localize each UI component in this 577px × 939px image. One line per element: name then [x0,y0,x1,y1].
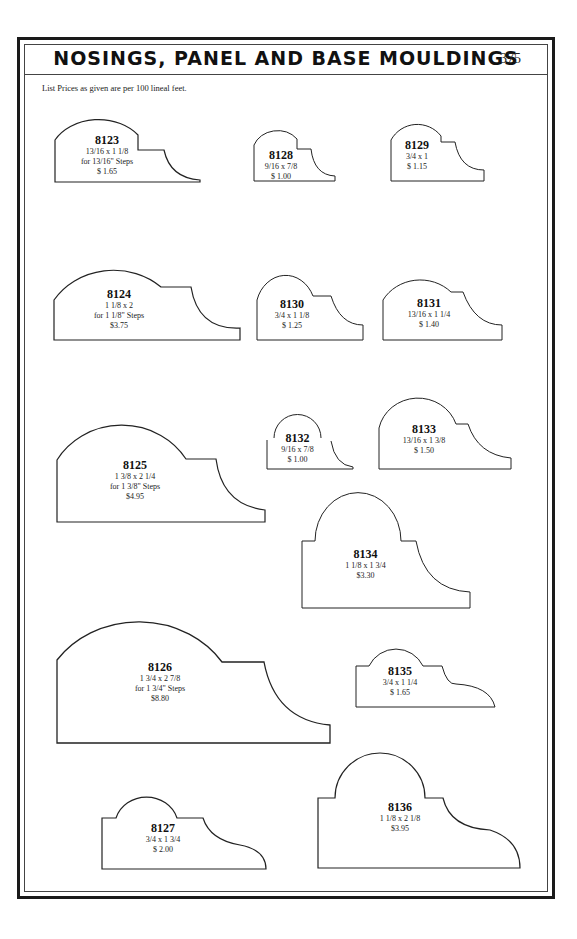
item-number: 8128 [256,149,306,162]
item-price: $ 1.65 [370,688,430,698]
item-number: 8125 [90,459,180,472]
item-number: 8127 [133,822,193,835]
item-size: 9/16 x 7/8 [256,162,306,172]
item-number: 8131 [394,297,464,310]
item-price: $ 1.00 [256,172,306,182]
item-price: $4.95 [90,492,180,502]
item-number: 8124 [74,288,164,301]
moulding-8124: 8124 1 1/8 x 2 for 1 1/8" Steps $3.75 [74,288,164,331]
item-price: $ 1.00 [270,455,325,465]
item-size: 13/16 x 1 1/8 [62,147,152,157]
moulding-8123: 8123 13/16 x 1 1/8 for 13/16" Steps $ 1.… [62,134,152,177]
item-size: 3/4 x 1 3/4 [133,835,193,845]
moulding-8135: 8135 3/4 x 1 1/4 $ 1.65 [370,665,430,698]
item-size: 1 1/8 x 2 1/8 [370,814,430,824]
item-price: $3.95 [370,824,430,834]
item-price: $3.30 [328,571,403,581]
item-price: $3.75 [74,321,164,331]
item-price: $ 2.00 [133,845,193,855]
item-number: 8129 [392,139,442,152]
item-number: 8133 [389,423,459,436]
item-number: 8130 [262,298,322,311]
item-number: 8134 [328,548,403,561]
item-size: 1 3/8 x 2 1/4 [90,472,180,482]
item-price: $ 1.25 [262,321,322,331]
moulding-8128: 8128 9/16 x 7/8 $ 1.00 [256,149,306,182]
item-number: 8126 [115,661,205,674]
item-size: 1 3/4 x 2 7/8 [115,674,205,684]
moulding-8125: 8125 1 3/8 x 2 1/4 for 1 3/8" Steps $4.9… [90,459,180,502]
item-size: 1 1/8 x 1 3/4 [328,561,403,571]
moulding-8130: 8130 3/4 x 1 1/8 $ 1.25 [262,298,322,331]
item-price: $ 1.65 [62,167,152,177]
item-number: 8123 [62,134,152,147]
item-size: 13/16 x 1 1/4 [394,310,464,320]
item-number: 8136 [370,801,430,814]
item-price: $ 1.50 [389,446,459,456]
moulding-8132: 8132 9/16 x 7/8 $ 1.00 [270,432,325,465]
item-size: 3/4 x 1 1/8 [262,311,322,321]
item-steps: for 1 1/8" Steps [74,311,164,321]
item-size: 13/16 x 1 3/8 [389,436,459,446]
item-steps: for 1 3/8" Steps [90,482,180,492]
moulding-8129: 8129 3/4 x 1 $ 1.15 [392,139,442,172]
moulding-8127: 8127 3/4 x 1 3/4 $ 2.00 [133,822,193,855]
item-steps: for 13/16" Steps [62,157,152,167]
item-size: 1 1/8 x 2 [74,301,164,311]
item-number: 8135 [370,665,430,678]
item-size: 9/16 x 7/8 [270,445,325,455]
moulding-8131: 8131 13/16 x 1 1/4 $ 1.40 [394,297,464,330]
item-price: $ 1.15 [392,162,442,172]
moulding-8134: 8134 1 1/8 x 1 3/4 $3.30 [328,548,403,581]
item-price: $8.80 [115,694,205,704]
moulding-8133: 8133 13/16 x 1 3/8 $ 1.50 [389,423,459,456]
moulding-8136: 8136 1 1/8 x 2 1/8 $3.95 [370,801,430,834]
item-price: $ 1.40 [394,320,464,330]
item-number: 8132 [270,432,325,445]
item-steps: for 1 3/4" Steps [115,684,205,694]
item-size: 3/4 x 1 1/4 [370,678,430,688]
moulding-8126: 8126 1 3/4 x 2 7/8 for 1 3/4" Steps $8.8… [115,661,205,704]
item-size: 3/4 x 1 [392,152,442,162]
